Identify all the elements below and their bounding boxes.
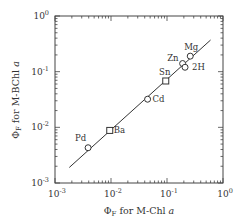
square-marker — [163, 78, 169, 84]
point-label: Zn — [167, 53, 179, 63]
data-point-cd: Cd — [145, 94, 166, 104]
data-points: PdBaCdSnZn2HMg — [75, 42, 205, 151]
data-point-sn: Sn — [159, 67, 171, 84]
data-point-pd: Pd — [75, 133, 91, 151]
tick-label: 10-1 — [160, 187, 178, 199]
point-label: 2H — [192, 62, 205, 72]
tick-labels: 10-310-210-110010-310-210-1100 — [31, 9, 233, 199]
x-axis-title: ΦF for M-Chl a — [104, 205, 175, 218]
tick-label: 10-3 — [48, 187, 66, 199]
tick-label: 10-2 — [31, 120, 49, 132]
tick-label: 100 — [33, 9, 49, 21]
y-axis-title: ΦF for M-BChl a — [10, 61, 23, 139]
square-marker — [107, 127, 113, 133]
data-point-zn: Zn — [167, 53, 185, 67]
scatter-chart: 10-310-210-110010-310-210-1100 PdBaCdSnZ… — [0, 0, 242, 223]
point-label: Sn — [159, 67, 171, 77]
data-point-mg: Mg — [184, 42, 199, 59]
circle-marker — [145, 96, 151, 102]
circle-marker — [182, 64, 188, 70]
point-label: Ba — [114, 125, 125, 135]
point-label: Mg — [184, 42, 199, 52]
point-label: Pd — [75, 133, 87, 143]
circle-marker — [187, 53, 193, 59]
circle-marker — [85, 145, 91, 151]
tick-label: 10-1 — [31, 65, 49, 77]
point-label: Cd — [153, 94, 166, 104]
tick-label: 10-3 — [31, 176, 49, 188]
tick-label: 10-2 — [104, 187, 122, 199]
tick-label: 100 — [217, 187, 233, 199]
data-point-ba: Ba — [107, 125, 125, 135]
